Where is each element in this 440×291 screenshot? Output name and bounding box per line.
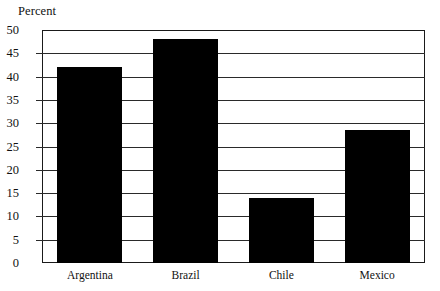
y-axis-tick-mark (36, 53, 42, 54)
y-axis-tick-mark (36, 147, 42, 148)
x-axis-category-label: Mexico (360, 269, 395, 281)
y-axis-title: Percent (18, 4, 56, 19)
y-axis-tick-mark (36, 77, 42, 78)
x-axis-category-label: Chile (269, 269, 294, 281)
y-axis-tick-mark (36, 170, 42, 171)
y-axis-tick-label: 45 (0, 47, 19, 60)
bar-chart: Percent 05101520253035404550 ArgentinaBr… (0, 0, 440, 291)
y-axis-tick-label: 30 (0, 117, 19, 130)
y-axis-tick-label: 25 (0, 140, 19, 153)
y-axis-tick-mark (36, 216, 42, 217)
y-axis-tick-label: 5 (0, 233, 19, 246)
y-axis-tick-label: 50 (0, 24, 19, 37)
y-axis-tick-mark (36, 100, 42, 101)
y-axis-tick-mark (36, 193, 42, 194)
bar (345, 130, 410, 263)
y-axis-tick-label: 20 (0, 164, 19, 177)
y-axis-tick-label: 0 (0, 257, 19, 270)
y-axis-tick-mark (36, 123, 42, 124)
y-axis-tick-label: 10 (0, 210, 19, 223)
gridline (42, 53, 425, 54)
bar (153, 39, 218, 263)
y-axis-tick-label: 40 (0, 70, 19, 83)
bar (249, 198, 314, 263)
bar (57, 67, 122, 263)
y-axis-tick-label: 15 (0, 187, 19, 200)
y-axis-tick-mark (36, 240, 42, 241)
x-axis-category-label: Brazil (172, 269, 200, 281)
x-axis-category-label: Argentina (67, 269, 113, 281)
y-axis-tick-label: 35 (0, 94, 19, 107)
